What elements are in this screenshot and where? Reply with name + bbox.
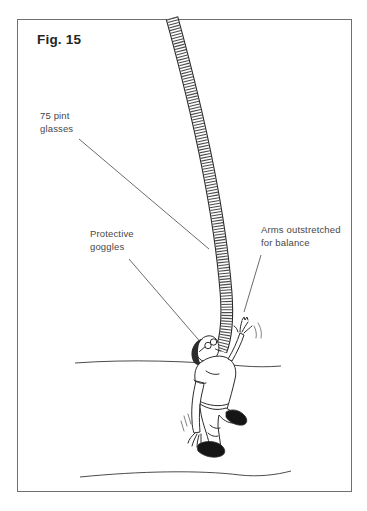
- label-75-pint-glasses: 75 pint glasses: [40, 110, 73, 135]
- label-line: glasses: [40, 123, 73, 136]
- label-line: Protective: [90, 228, 134, 241]
- figure-page: Fig. 15: [0, 0, 367, 511]
- label-protective-goggles: Protective goggles: [90, 228, 134, 253]
- illustration-canvas: [0, 0, 367, 511]
- ground-line: [75, 361, 281, 367]
- motion-lines-raised-hand: [254, 323, 261, 338]
- label-arms-outstretched: Arms outstretched for balance: [261, 224, 341, 249]
- label-line: 75 pint: [40, 110, 73, 123]
- raised-hand: [234, 317, 252, 333]
- label-line: Arms outstretched: [261, 224, 341, 237]
- motion-lines-hanging-hand: [181, 414, 191, 431]
- goggles-leader-line: [129, 259, 203, 345]
- label-line: for balance: [261, 237, 341, 250]
- pint-glass-stack: [172, 18, 227, 351]
- floor-line: [80, 471, 291, 477]
- label-line: goggles: [90, 241, 134, 254]
- arms-leader-line: [244, 255, 261, 312]
